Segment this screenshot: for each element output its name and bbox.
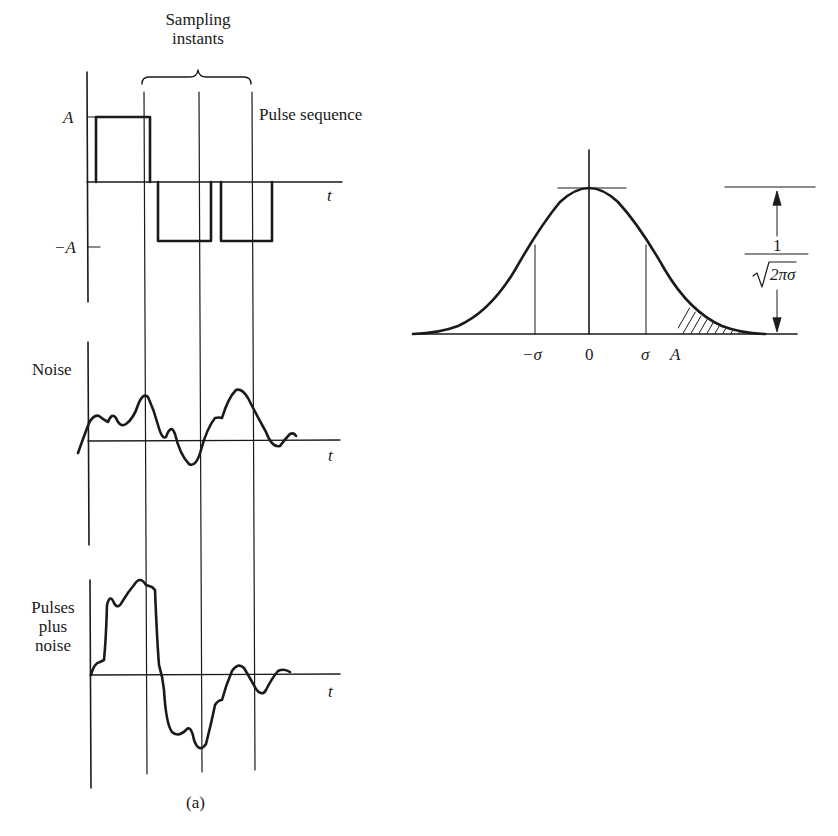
amp-neg-label: −A	[54, 239, 76, 256]
sampling-brace	[142, 70, 251, 84]
tick-zero: 0	[585, 346, 594, 363]
combined-title-line3: noise	[24, 636, 82, 655]
combined-title-line1: Pulses	[24, 598, 82, 617]
sampling-label-line2: instants	[163, 29, 233, 48]
height-numerator: 1	[773, 237, 782, 254]
figure-caption: (a)	[186, 794, 205, 811]
noise-y-axis	[88, 342, 89, 545]
sampling-line-3	[252, 92, 255, 770]
sampling-instants-label: Sampling instants	[163, 10, 233, 48]
pulse-waveform	[96, 117, 272, 241]
pulse-t-label: t	[327, 187, 332, 204]
noise-t-label: t	[328, 447, 333, 464]
combined-y-axis	[90, 580, 91, 788]
arrow-down-icon	[773, 318, 781, 332]
tick-neg-sigma: −σ	[522, 346, 542, 363]
sampling-line-2	[199, 92, 202, 772]
tick-a: A	[670, 346, 680, 363]
noise-t-axis	[88, 440, 340, 441]
tick-sigma: σ	[641, 346, 649, 363]
combined-title: Pulses plus noise	[24, 598, 82, 655]
sampling-line-1	[144, 92, 147, 774]
noise-waveform	[78, 390, 296, 465]
sampling-label-line1: Sampling	[163, 10, 233, 29]
pulse-y-axis	[87, 72, 88, 302]
combined-t-label: t	[328, 683, 333, 700]
combined-title-line2: plus	[24, 617, 82, 636]
amp-pos-label: A	[63, 109, 73, 126]
height-denominator: 2πσ	[770, 266, 795, 283]
pulse-sequence-title: Pulse sequence	[259, 106, 362, 123]
figure-canvas	[0, 0, 838, 836]
arrow-up-icon	[773, 191, 781, 205]
noise-title: Noise	[32, 361, 72, 378]
denominator-expr: 2πσ	[770, 265, 795, 284]
combined-t-axis	[90, 674, 340, 675]
combined-waveform	[91, 580, 290, 748]
